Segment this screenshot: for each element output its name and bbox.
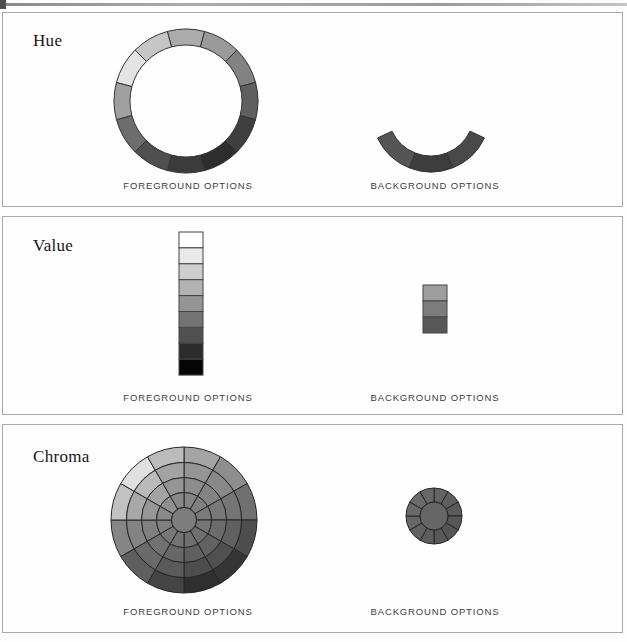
top-rule (0, 3, 627, 6)
scan-corner-mark (0, 0, 6, 9)
panel-title-value: Value (33, 236, 73, 256)
page: Hue FOREGROUND OPTIONS BACKGROUND OPTION… (0, 0, 627, 642)
panel-title-chroma: Chroma (33, 447, 90, 467)
hue-background-arc (3, 13, 622, 206)
chroma-foreground-wheel (3, 425, 622, 632)
value-background-scale (3, 217, 622, 414)
chroma-background-label: BACKGROUND OPTIONS (285, 606, 585, 617)
hue-background-label: BACKGROUND OPTIONS (285, 180, 585, 191)
panel-hue: Hue FOREGROUND OPTIONS BACKGROUND OPTION… (2, 12, 623, 207)
hue-foreground-ring (3, 13, 622, 206)
value-foreground-scale (3, 217, 622, 414)
chroma-background-wheel (3, 425, 622, 632)
panel-chroma: Chroma FOREGROUND OPTIONS BACKGROUND OPT… (2, 424, 623, 633)
panel-title-hue: Hue (33, 31, 62, 51)
panel-value: Value FOREGROUND OPTIONS BACKGROUND OPTI… (2, 216, 623, 415)
value-background-label: BACKGROUND OPTIONS (285, 392, 585, 403)
